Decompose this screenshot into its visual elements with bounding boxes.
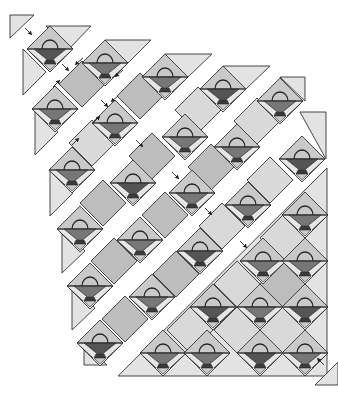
arrow-icon (136, 140, 142, 146)
quilt-assembly-diagram (0, 0, 338, 395)
arrow-icon (53, 81, 59, 87)
arrow-icon (25, 28, 31, 34)
arrow-icon (205, 208, 211, 214)
arrow-icon (62, 64, 68, 70)
setting-triangle (10, 15, 34, 38)
arrow-icon (172, 172, 178, 178)
arrow-icon (101, 100, 107, 106)
arrow-icon (240, 241, 246, 247)
